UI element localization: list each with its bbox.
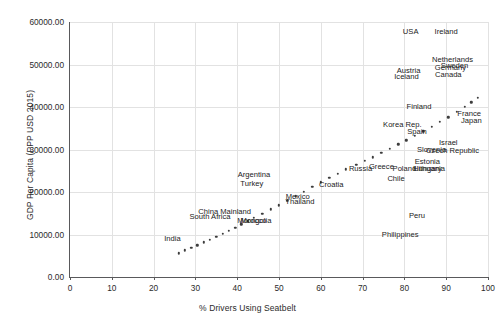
x-tick-mark: [70, 277, 71, 280]
scatter-point: [470, 101, 472, 103]
point-label: Philippines: [382, 230, 419, 239]
point-label: Turkey: [240, 179, 263, 188]
y-tick-label: 20000.00: [2, 187, 64, 197]
point-label: Czech Republic: [426, 145, 479, 154]
point-label: India: [164, 233, 180, 242]
point-label: China Mainland: [198, 207, 251, 216]
scatter-point: [196, 244, 198, 246]
point-label: Croatia: [319, 180, 343, 189]
gridline-horizontal: [70, 22, 488, 23]
point-label: Chile: [387, 174, 404, 183]
point-label: France: [457, 109, 481, 118]
x-axis-title: % Drivers Using Seatbelt: [0, 303, 495, 313]
y-tick-label: 60000.00: [2, 17, 64, 27]
x-tick-label: 50: [259, 283, 299, 293]
x-tick-label: 20: [134, 283, 174, 293]
scatter-point: [234, 226, 236, 228]
x-tick-label: 60: [301, 283, 341, 293]
x-tick-label: 0: [50, 283, 90, 293]
point-label: Estonia: [415, 156, 440, 165]
point-label: USA: [403, 27, 419, 36]
x-tick-mark: [154, 277, 155, 280]
scatter-point: [261, 212, 263, 214]
point-label: Morocco: [237, 216, 266, 225]
scatter-point: [228, 229, 230, 231]
point-label: Iceland: [394, 72, 419, 81]
scatter-point: [215, 235, 217, 237]
scatter-point: [209, 238, 211, 240]
scatter-point: [430, 125, 432, 127]
plot-area: 01020304050607080901000.0010000.0020000.…: [70, 22, 488, 277]
scatter-point: [184, 249, 186, 251]
scatter-point: [476, 96, 478, 98]
scatter-point: [345, 168, 347, 170]
point-label: Mexico: [286, 191, 310, 200]
point-label: Ireland: [435, 27, 458, 36]
x-tick-label: 30: [175, 283, 215, 293]
x-tick-mark: [404, 277, 405, 280]
scatter-point: [311, 186, 313, 188]
point-label: Canada: [435, 70, 462, 79]
x-tick-mark: [446, 277, 447, 280]
y-tick-label: 0.00: [2, 272, 64, 282]
point-label: Peru: [409, 211, 425, 220]
gridline-horizontal: [70, 65, 488, 66]
scatter-point: [447, 116, 449, 118]
x-tick-label: 100: [468, 283, 500, 293]
point-label: Korea Rep.: [383, 120, 421, 129]
scatter-point: [372, 156, 374, 158]
scatter-point: [328, 177, 330, 179]
scatter-point: [190, 246, 192, 248]
scatter-point: [269, 208, 271, 210]
x-tick-mark: [237, 277, 238, 280]
y-tick-label: 30000.00: [2, 145, 64, 155]
x-tick-mark: [363, 277, 364, 280]
point-label: Argentina: [238, 169, 271, 178]
point-label: Greece: [369, 162, 394, 171]
scatter-point: [363, 160, 365, 162]
x-tick-label: 40: [217, 283, 257, 293]
x-tick-label: 90: [426, 283, 466, 293]
y-axis-title: GDP Per Capita (PPP USD 2015): [25, 65, 35, 245]
x-tick-mark: [488, 277, 489, 280]
y-tick-label: 50000.00: [2, 60, 64, 70]
x-tick-label: 70: [343, 283, 383, 293]
y-tick-label: 40000.00: [2, 102, 64, 112]
x-tick-mark: [279, 277, 280, 280]
gridline-horizontal: [70, 192, 488, 193]
scatter-point: [380, 152, 382, 154]
scatter-point: [203, 241, 205, 243]
scatter-point: [397, 143, 399, 145]
point-label: Finland: [407, 102, 432, 111]
scatter-point: [405, 139, 407, 141]
scatter-point: [177, 252, 179, 254]
x-tick-mark: [195, 277, 196, 280]
gridline-vertical: [488, 22, 489, 277]
x-tick-mark: [321, 277, 322, 280]
point-label: Israel: [439, 137, 458, 146]
x-tick-mark: [112, 277, 113, 280]
x-tick-label: 80: [384, 283, 424, 293]
gridline-horizontal: [70, 235, 488, 236]
scatter-point: [336, 173, 338, 175]
scatter-point: [439, 121, 441, 123]
y-tick-label: 10000.00: [2, 230, 64, 240]
x-tick-label: 10: [92, 283, 132, 293]
